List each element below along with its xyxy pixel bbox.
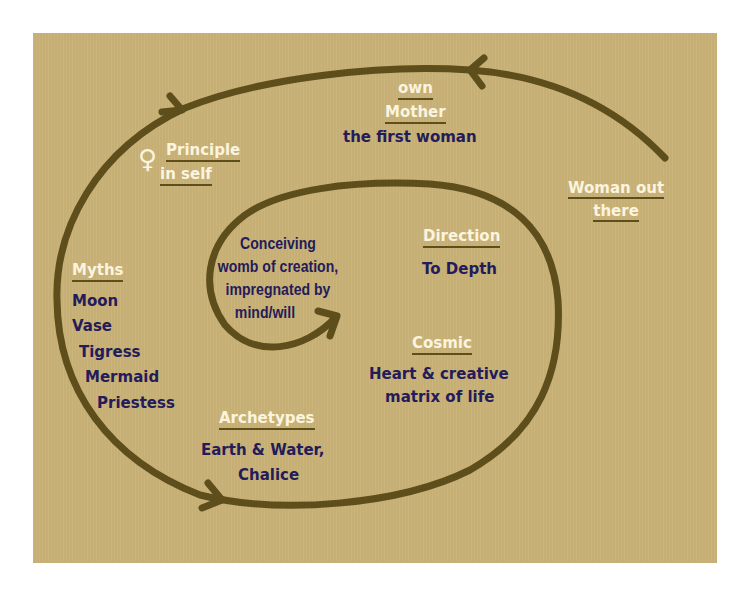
label-in-self: in self [160,166,212,186]
myth-item: Vase [72,316,112,337]
center-line-1: Conceiving [216,233,339,254]
venus-icon: ♀ [138,146,157,172]
center-line-4: mind/will [225,302,304,323]
label-woman-out-there: Woman out there [568,180,664,223]
label-myths: Myths [72,262,123,282]
woman-out-there-line2: there [593,203,639,222]
myth-item: Tigress [79,342,141,363]
label-principle: Principle [166,142,240,162]
center-line-2: womb of creation, [209,256,346,277]
myth-item: Mermaid [85,367,159,388]
label-archetypes: Archetypes [219,410,315,430]
archetypes-body-1: Earth & Water, [201,440,325,461]
direction-body: To Depth [422,259,497,280]
cosmic-body-2: matrix of life [385,387,494,408]
label-own: own [398,80,433,100]
myth-item: Priestess [97,393,175,414]
center-line-3: impregnated by [214,279,342,300]
label-cosmic: Cosmic [412,335,472,355]
label-mother: Mother [385,104,446,124]
label-direction: Direction [423,228,500,248]
myth-item: Moon [72,291,118,312]
mother-body: the first woman [343,127,477,148]
cosmic-body-1: Heart & creative [369,364,509,385]
archetypes-body-2: Chalice [238,465,299,486]
woman-out-there-line1: Woman out [568,180,664,199]
